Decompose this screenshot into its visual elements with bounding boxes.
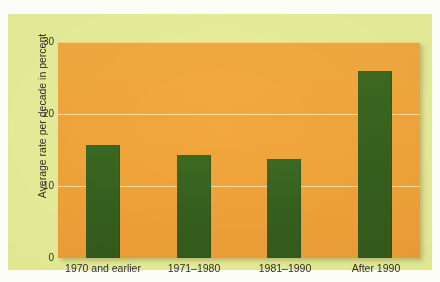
x-axis-labels: 1970 and earlier 1971–1980 1981–1990 Aft…: [58, 262, 420, 278]
x-tick-label-0: 1970 and earlier: [65, 262, 141, 274]
gridline-30: [58, 42, 420, 43]
y-axis-ticks: 0 10 20 30: [16, 42, 54, 258]
bar-1970-and-earlier: [86, 145, 120, 258]
bar-1971-1980: [177, 155, 211, 258]
chart-card: Average rate per decade in percent 0 10 …: [8, 14, 432, 270]
plot-area: [58, 42, 420, 258]
x-tick-label-3: After 1990: [352, 262, 400, 274]
y-tick-label-0: 0: [20, 253, 54, 263]
y-tick-label-30: 30: [20, 37, 54, 47]
bar-1981-1990: [267, 159, 301, 258]
bar-after-1990: [358, 71, 392, 258]
chart-page: Average rate per decade in percent 0 10 …: [0, 0, 440, 282]
x-tick-label-1: 1971–1980: [168, 262, 221, 274]
plot-inner: [58, 42, 420, 258]
y-tick-label-10: 10: [20, 181, 54, 191]
y-tick-label-20: 20: [20, 109, 54, 119]
x-tick-label-2: 1981–1990: [259, 262, 312, 274]
